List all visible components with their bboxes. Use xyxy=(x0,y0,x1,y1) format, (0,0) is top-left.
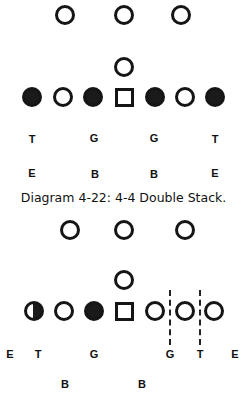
position-label: G xyxy=(166,349,175,360)
open-circle-icon xyxy=(114,5,134,25)
position-label: E xyxy=(28,168,35,179)
open-circle-icon xyxy=(175,87,195,107)
position-label: E xyxy=(231,349,238,360)
formation-diagram: Diagram 4-22: 4-4 Double Stack. TGGTEBBE… xyxy=(0,0,247,400)
position-label: B xyxy=(91,169,99,180)
position-label: G xyxy=(150,133,159,144)
position-label: E xyxy=(6,349,13,360)
open-circle-icon xyxy=(114,270,134,290)
position-label: T xyxy=(197,349,204,360)
center-square-icon xyxy=(115,302,134,321)
position-label: B xyxy=(61,379,69,390)
gap-dashed-line xyxy=(169,290,171,345)
center-square-icon xyxy=(115,88,134,107)
open-circle-icon xyxy=(204,301,224,321)
open-circle-icon xyxy=(171,5,191,25)
filled-circle-icon xyxy=(145,87,165,107)
position-label: B xyxy=(150,169,158,180)
open-circle-icon xyxy=(175,301,195,321)
open-circle-icon xyxy=(114,57,134,77)
open-circle-icon xyxy=(114,220,134,240)
position-label: T xyxy=(35,349,42,360)
filled-circle-icon xyxy=(22,87,42,107)
open-circle-icon xyxy=(145,301,165,321)
open-circle-icon xyxy=(53,87,73,107)
position-label: B xyxy=(138,379,146,390)
position-label: G xyxy=(90,349,99,360)
filled-circle-icon xyxy=(84,301,104,321)
position-label: E xyxy=(211,168,218,179)
open-circle-icon xyxy=(60,220,80,240)
open-circle-icon xyxy=(55,5,75,25)
gap-dashed-line xyxy=(199,290,201,345)
filled-circle-icon xyxy=(205,87,225,107)
half-filled-circle-icon xyxy=(24,301,44,321)
open-circle-icon xyxy=(54,301,74,321)
position-label: G xyxy=(90,133,99,144)
position-label: T xyxy=(29,134,36,145)
diagram-caption: Diagram 4-22: 4-4 Double Stack. xyxy=(0,190,247,205)
position-label: T xyxy=(212,134,219,145)
filled-circle-icon xyxy=(83,87,103,107)
open-circle-icon xyxy=(175,220,195,240)
